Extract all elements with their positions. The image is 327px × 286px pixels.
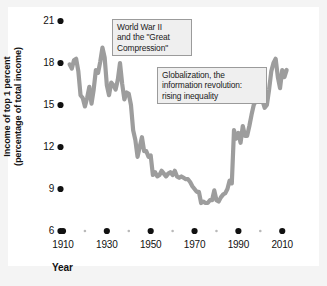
- x-tick-label: 1910: [43, 239, 83, 250]
- annotation-line: World War II: [117, 22, 188, 32]
- annotation-world-war-two: World War IIand the "GreatCompression": [112, 19, 192, 56]
- x-tick-dot: [148, 228, 154, 234]
- annotation-line: rising inequality: [162, 91, 263, 101]
- x-tick-label: 1930: [87, 239, 127, 250]
- y-tick-label: 6: [32, 225, 54, 236]
- x-tick-dot: [191, 228, 197, 234]
- income-share-line-chart: Income of top 1 percent (percentage of t…: [0, 0, 327, 286]
- annotation-line: information revolution:: [162, 80, 263, 90]
- x-axis-title: Year: [52, 262, 73, 273]
- y-tick-dot: [57, 186, 63, 192]
- annotation-globalization: Globalization, theinformation revolution…: [157, 67, 267, 104]
- x-tick-dot: [235, 228, 241, 234]
- y-tick-dot: [57, 18, 63, 24]
- x-tick-dot: [60, 228, 66, 234]
- x-minor-tick-dot: [127, 230, 130, 233]
- y-tick-label: 15: [32, 99, 54, 110]
- y-tick-dot: [57, 102, 63, 108]
- x-minor-tick-dot: [84, 230, 87, 233]
- y-tick-dot: [57, 60, 63, 66]
- x-tick-label: 2010: [262, 239, 302, 250]
- y-tick-label: 9: [32, 183, 54, 194]
- x-tick-dot: [104, 228, 110, 234]
- y-tick-label: 12: [32, 141, 54, 152]
- x-tick-label: 1950: [131, 239, 171, 250]
- x-minor-tick-dot: [259, 230, 262, 233]
- annotation-line: Compression": [117, 43, 188, 53]
- x-tick-dot: [279, 228, 285, 234]
- y-tick-label: 21: [32, 15, 54, 26]
- y-tick-dot: [57, 144, 63, 150]
- annotation-line: Globalization, the: [162, 70, 263, 80]
- x-axis-minor-tick-dots: [84, 230, 262, 233]
- x-tick-label: 1970: [175, 239, 215, 250]
- x-tick-label: 1990: [218, 239, 258, 250]
- x-minor-tick-dot: [215, 230, 218, 233]
- y-axis-tick-dots: [57, 18, 63, 234]
- y-tick-label: 18: [32, 57, 54, 68]
- annotation-line: and the "Great: [117, 32, 188, 42]
- x-minor-tick-dot: [171, 230, 174, 233]
